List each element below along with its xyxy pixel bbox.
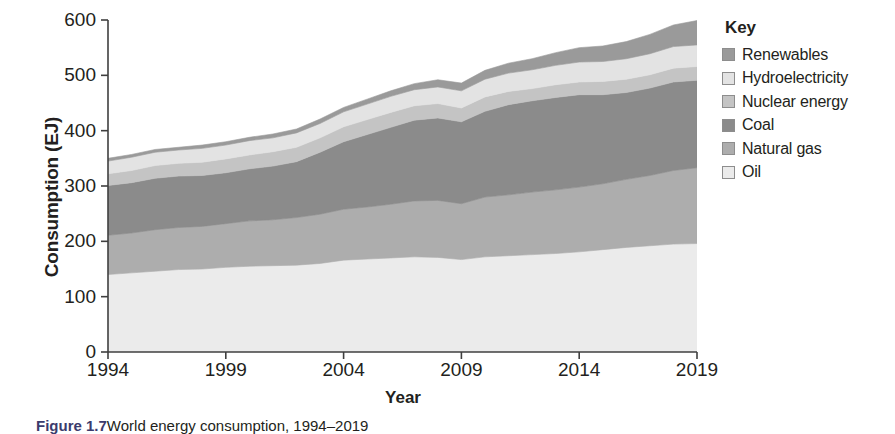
x-axis-title: Year bbox=[108, 388, 698, 408]
legend-label: Coal bbox=[742, 116, 774, 134]
plot-area bbox=[108, 20, 697, 352]
legend-item-oil[interactable]: Oil bbox=[722, 163, 892, 182]
stacked-area-chart bbox=[108, 20, 697, 352]
legend-swatch-icon bbox=[722, 48, 735, 61]
legend-item-nuclear-energy[interactable]: Nuclear energy bbox=[722, 92, 892, 111]
y-tick-label-600: 600 bbox=[40, 10, 96, 29]
legend-items: RenewablesHydroelectricityNuclear energy… bbox=[722, 45, 892, 182]
x-tick-label-2009: 2009 bbox=[421, 360, 501, 379]
legend-key: Key RenewablesHydroelectricityNuclear en… bbox=[722, 18, 892, 186]
legend-label: Nuclear energy bbox=[742, 93, 848, 111]
legend-item-hydroelectricity[interactable]: Hydroelectricity bbox=[722, 69, 892, 88]
legend-swatch-icon bbox=[722, 72, 735, 85]
legend-label: Renewables bbox=[742, 46, 828, 64]
caption-text: World energy consumption, 1994–2019 bbox=[107, 417, 369, 434]
x-tick-label-1999: 1999 bbox=[186, 360, 266, 379]
y-tick-label-400: 400 bbox=[40, 121, 96, 140]
x-tick-label-2004: 2004 bbox=[304, 360, 384, 379]
legend-item-renewables[interactable]: Renewables bbox=[722, 45, 892, 64]
legend-label: Natural gas bbox=[742, 140, 822, 158]
x-axis-tick-labels: 199419992004200920142019 bbox=[0, 356, 895, 386]
legend-label: Hydroelectricity bbox=[742, 69, 848, 87]
y-tick-label-100: 100 bbox=[40, 287, 96, 306]
caption-label: Figure 1.7 bbox=[36, 417, 107, 434]
x-tick-label-1994: 1994 bbox=[68, 360, 148, 379]
y-tick-label-200: 200 bbox=[40, 231, 96, 250]
y-tick-label-500: 500 bbox=[40, 65, 96, 84]
legend-item-natural-gas[interactable]: Natural gas bbox=[722, 139, 892, 158]
legend-label: Oil bbox=[742, 163, 761, 181]
legend-swatch-icon bbox=[722, 95, 735, 108]
legend-swatch-icon bbox=[722, 119, 735, 132]
y-tick-label-300: 300 bbox=[40, 176, 96, 195]
legend-item-coal[interactable]: Coal bbox=[722, 116, 892, 135]
legend-title: Key bbox=[725, 18, 892, 38]
legend-swatch-icon bbox=[722, 142, 735, 155]
x-tick-label-2019: 2019 bbox=[657, 360, 737, 379]
area-series-group bbox=[108, 21, 697, 352]
figure-caption: Figure 1.7World energy consumption, 1994… bbox=[36, 417, 886, 434]
x-tick-label-2014: 2014 bbox=[539, 360, 619, 379]
legend-swatch-icon bbox=[722, 166, 735, 179]
y-axis-tick-labels: 0100200300400500600 bbox=[30, 0, 96, 372]
